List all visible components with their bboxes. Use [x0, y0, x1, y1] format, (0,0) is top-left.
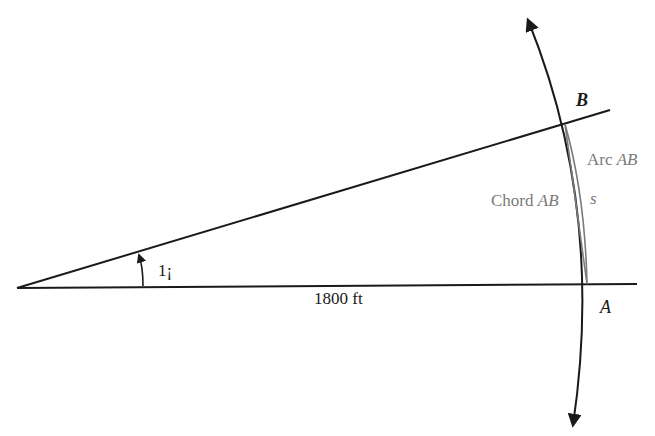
point-b-label: B	[575, 90, 588, 110]
angle-label: 1¡	[158, 261, 172, 280]
distance-label: 1800 ft	[314, 289, 363, 308]
chord-ab	[565, 124, 587, 284]
chord-ab-label: Chord AB	[491, 191, 559, 210]
arc-ab-label: Arc AB	[587, 150, 638, 169]
chord-word: Chord	[491, 191, 538, 210]
diagram-canvas: B A Arc AB Chord AB s 1¡ 1800 ft	[0, 0, 655, 436]
point-a-label: A	[599, 297, 612, 317]
chord-ab-letters: AB	[537, 191, 559, 210]
arc-ab-letters: AB	[616, 150, 638, 169]
arc-word: Arc	[587, 150, 617, 169]
angle-arrow	[139, 255, 143, 286]
baseline	[17, 284, 637, 288]
arc-length-s-label: s	[590, 189, 597, 208]
circle-arc-arrow	[528, 20, 582, 425]
